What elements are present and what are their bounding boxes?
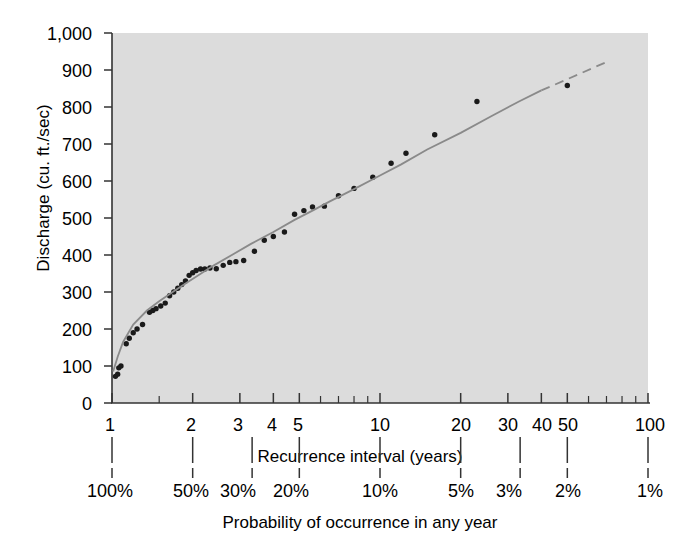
data-point [292, 212, 297, 217]
data-point [153, 306, 158, 311]
data-point [140, 322, 145, 327]
data-point [115, 371, 120, 376]
data-point [118, 363, 123, 368]
data-point [565, 83, 570, 88]
data-point [134, 326, 139, 331]
plot-canvas [0, 0, 690, 552]
data-point [241, 258, 246, 263]
data-point [388, 161, 393, 166]
data-point [158, 303, 163, 308]
data-point [301, 208, 306, 213]
data-point [403, 151, 408, 156]
data-point [163, 300, 168, 305]
figure: Discharge (cu. ft./sec) 1,000 900 800 70… [0, 0, 690, 552]
data-point [227, 260, 232, 265]
data-point [271, 234, 276, 239]
data-point [214, 266, 219, 271]
data-point [233, 259, 238, 264]
plot-area [112, 33, 648, 403]
data-point [474, 99, 479, 104]
data-point [124, 341, 129, 346]
data-point [432, 132, 437, 137]
data-point [252, 249, 257, 254]
data-point [282, 229, 287, 234]
data-point [221, 263, 226, 268]
